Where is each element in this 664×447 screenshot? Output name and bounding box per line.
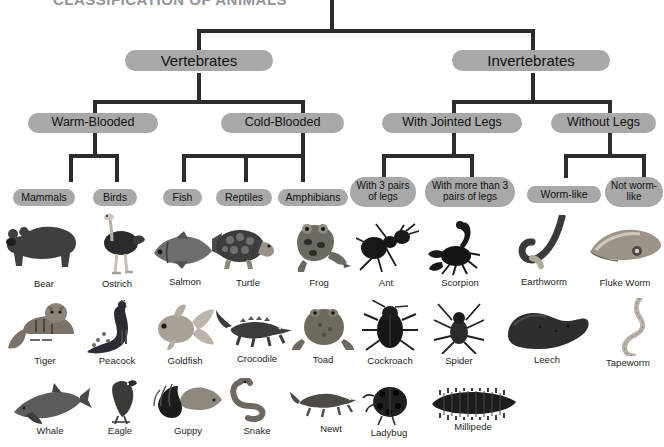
node-amphibians[interactable]: Amphibians <box>278 189 348 206</box>
connector-vertebrates-bar <box>93 100 305 104</box>
specimen-ostrich: Ostrich <box>88 213 146 289</box>
page-title: CLASSIFICATION OF ANIMALS <box>0 0 340 8</box>
specimen-label: Millipede <box>424 421 522 432</box>
snake-illustration <box>222 378 292 424</box>
specimen-leech: Leech <box>500 305 594 365</box>
connector-worm-like-drop <box>564 154 568 178</box>
frog-illustration <box>283 220 355 276</box>
specimen-label: Peacock <box>84 355 150 366</box>
specimen-label: Bear <box>4 278 84 289</box>
connector-invertebrates-stem <box>531 73 535 103</box>
bear-illustration <box>4 215 84 277</box>
peacock-illustration <box>84 300 150 354</box>
node-mammals[interactable]: Mammals <box>13 189 75 206</box>
specimen-label: Tiger <box>6 355 84 366</box>
connector-cold-stem <box>301 132 305 156</box>
fluke-worm-illustration <box>586 222 664 276</box>
node-with-more-than-3-pairs-of-legs[interactable]: With more than 3 pairs of legs <box>425 177 515 207</box>
connector-reptiles-drop <box>244 154 248 182</box>
specimen-label: Turtle <box>212 277 284 288</box>
specimen-label: Snake <box>222 425 292 436</box>
leech-illustration <box>500 305 594 353</box>
node-not-worm-like[interactable]: Not worm-like <box>605 177 663 207</box>
turtle-illustration <box>212 222 284 276</box>
connector-not-worm-like-drop <box>642 154 646 178</box>
connector-three-pairs-drop <box>382 154 386 178</box>
specimen-snake: Snake <box>222 378 292 436</box>
toad-illustration <box>288 303 358 353</box>
specimen-cockroach: Cockroach <box>358 300 422 366</box>
node-birds[interactable]: Birds <box>93 189 137 206</box>
connector-amphibians-drop <box>301 154 305 182</box>
specimen-goldfish: Goldfish <box>152 302 218 366</box>
specimen-eagle: Eagle <box>92 378 148 436</box>
scorpion-illustration <box>422 218 498 276</box>
specimen-tapeworm: Tapeworm <box>598 298 658 368</box>
specimen-label: Toad <box>288 354 358 365</box>
goldfish-illustration <box>152 302 218 354</box>
specimen-frog: Frog <box>283 220 355 288</box>
connector-root-bar <box>197 29 535 33</box>
connector-vertebrates-stem <box>197 73 201 103</box>
connector-birds-drop <box>115 154 119 182</box>
eagle-illustration <box>92 378 148 424</box>
connector-more-pairs-drop <box>470 154 474 178</box>
tiger-illustration <box>6 300 84 354</box>
specimen-label: Ladybug <box>358 427 420 438</box>
connector-fish-drop <box>182 154 186 182</box>
specimen-scorpion: Scorpion <box>422 218 498 288</box>
specimen-label: Eagle <box>92 425 148 436</box>
specimen-turtle: Turtle <box>212 222 284 288</box>
specimen-label: Whale <box>8 425 92 436</box>
specimen-label: Tapeworm <box>598 357 658 368</box>
specimen-toad: Toad <box>288 303 358 365</box>
connector-jointed-bar <box>382 154 474 158</box>
specimen-ladybug: Ladybug <box>358 382 420 438</box>
specimen-label: Scorpion <box>422 277 498 288</box>
specimen-bear: Bear <box>4 215 84 289</box>
specimen-label: Guppy <box>152 425 224 436</box>
cockroach-illustration <box>358 300 422 354</box>
specimen-millipede: Millipede <box>424 388 522 432</box>
node-invertebrates[interactable]: Invertebrates <box>452 50 610 71</box>
spider-illustration <box>428 298 490 354</box>
node-without-legs[interactable]: Without Legs <box>551 113 656 133</box>
specimen-label: Spider <box>428 355 490 366</box>
classification-diagram: CLASSIFICATION OF ANIMALS Vertebrates In… <box>0 0 664 447</box>
specimen-guppy: Guppy <box>152 380 224 436</box>
connector-warm-stem <box>93 132 97 156</box>
node-with-3-pairs-of-legs[interactable]: With 3 pairs of legs <box>350 177 416 207</box>
connector-invertebrates-bar <box>452 100 612 104</box>
specimen-label: Goldfish <box>152 355 218 366</box>
node-warm-blooded[interactable]: Warm-Blooded <box>28 113 158 133</box>
connector-jointed-stem <box>452 132 456 156</box>
specimen-ant: Ant <box>352 218 420 288</box>
specimen-label: Fluke Worm <box>586 277 664 288</box>
ostrich-illustration <box>88 213 146 277</box>
specimen-fluke-worm: Fluke Worm <box>586 222 664 288</box>
tapeworm-illustration <box>598 298 658 356</box>
node-with-jointed-legs[interactable]: With Jointed Legs <box>382 113 522 133</box>
ant-illustration <box>352 218 420 276</box>
specimen-label: Frog <box>283 277 355 288</box>
specimen-label: Cockroach <box>358 355 422 366</box>
node-vertebrates[interactable]: Vertebrates <box>125 50 273 71</box>
specimen-whale: Whale <box>8 382 92 436</box>
specimen-tiger: Tiger <box>6 300 84 366</box>
node-fish[interactable]: Fish <box>163 189 202 206</box>
specimen-earthworm: Earthworm <box>508 215 580 287</box>
ladybug-illustration <box>358 382 420 426</box>
specimen-spider: Spider <box>428 298 490 366</box>
specimen-peacock: Peacock <box>84 300 150 366</box>
millipede-illustration <box>424 388 522 420</box>
specimen-label: Earthworm <box>508 276 580 287</box>
connector-root-stem <box>330 0 334 30</box>
node-reptiles[interactable]: Reptiles <box>216 189 272 206</box>
node-cold-blooded[interactable]: Cold-Blooded <box>221 113 344 133</box>
connector-without-bar <box>564 154 646 158</box>
connector-warm-bar <box>69 154 119 158</box>
connector-mammals-drop <box>69 154 73 182</box>
whale-illustration <box>8 382 92 424</box>
node-worm-like[interactable]: Worm-like <box>527 186 601 203</box>
specimen-label: Ant <box>352 277 420 288</box>
